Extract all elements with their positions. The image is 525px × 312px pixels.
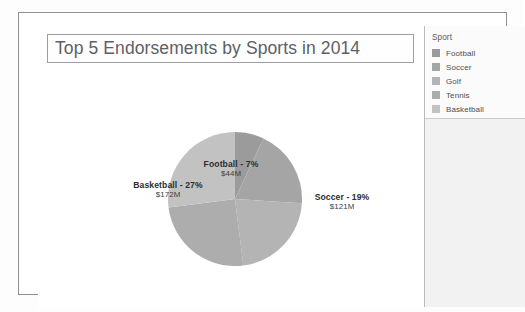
pie-label-basketball: Basketball - 27% $172M — [103, 180, 233, 200]
legend-item-football[interactable]: Football — [425, 46, 525, 60]
pie-label-soccer: Soccer - 19% $121M — [282, 192, 402, 212]
legend-panel: Sport FootballSoccerGolfTennisBasketball — [425, 26, 525, 307]
legend-item-list: FootballSoccerGolfTennisBasketball — [425, 46, 525, 116]
legend-swatch-icon — [432, 77, 440, 85]
pie-label-basketball-name: Basketball - 27% — [103, 180, 233, 190]
legend-item-tennis[interactable]: Tennis — [425, 88, 525, 102]
legend-item-label: Tennis — [446, 91, 470, 100]
pie-label-soccer-name: Soccer - 19% — [282, 192, 402, 202]
legend-swatch-icon — [432, 49, 440, 57]
pie-slice-tennis[interactable] — [169, 199, 244, 266]
pie-chart-area: Football - 7% $44M Soccer - 19% $121M Go… — [38, 70, 425, 307]
legend-item-golf[interactable]: Golf — [425, 74, 525, 88]
legend-swatch-icon — [432, 91, 440, 99]
dashboard-frame: Top 5 Endorsements by Sports in 2014 Foo… — [18, 12, 507, 295]
legend-item-label: Football — [446, 49, 475, 58]
legend-item-label: Golf — [446, 77, 461, 86]
pie-label-soccer-value: $121M — [282, 202, 402, 212]
legend-swatch-icon — [432, 105, 440, 113]
legend-swatch-icon — [432, 63, 440, 71]
pie-label-basketball-value: $172M — [103, 190, 233, 200]
pie-label-football-value: $44M — [171, 169, 291, 179]
legend-item-soccer[interactable]: Soccer — [425, 60, 525, 74]
legend-title: Sport — [425, 26, 525, 46]
legend-item-basketball[interactable]: Basketball — [425, 102, 525, 116]
page-title: Top 5 Endorsements by Sports in 2014 — [48, 38, 360, 59]
chart-title-box[interactable]: Top 5 Endorsements by Sports in 2014 — [47, 34, 414, 63]
legend-item-label: Basketball — [446, 105, 484, 114]
chart-panel: Top 5 Endorsements by Sports in 2014 Foo… — [38, 26, 425, 307]
legend-item-label: Soccer — [446, 63, 472, 72]
pie-label-football: Football - 7% $44M — [171, 159, 291, 179]
pie-label-football-name: Football - 7% — [171, 159, 291, 169]
legend-card: Sport FootballSoccerGolfTennisBasketball — [425, 26, 525, 119]
